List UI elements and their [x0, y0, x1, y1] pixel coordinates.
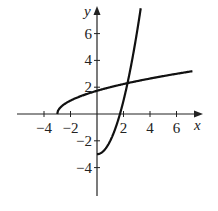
y-axis-arrow-icon [94, 6, 101, 15]
x-tick-label: −4 [36, 120, 52, 136]
graph: −4−2246 642−2−4 x y [0, 0, 218, 211]
x-axis-label: x [193, 117, 201, 133]
y-tick-label: 4 [85, 52, 93, 68]
y-axis-label: y [82, 3, 91, 19]
x-ticks: −4−2246 [36, 111, 181, 136]
y-tick-label: −4 [76, 160, 92, 176]
x-tick-label: 6 [173, 120, 181, 136]
x-tick-label: 2 [120, 120, 128, 136]
y-tick-label: 6 [85, 26, 93, 42]
y-tick-label: −2 [76, 133, 92, 149]
x-tick-label: 4 [146, 120, 154, 136]
